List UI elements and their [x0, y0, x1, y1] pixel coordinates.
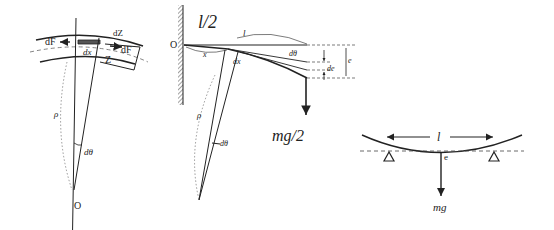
figure-cantilever: l/2 O l x dx dθ de e mg/2 ρ dθ	[170, 5, 355, 200]
origin-label: O	[74, 200, 81, 211]
inner-fiber	[40, 56, 135, 64]
dtheta-top-label: dθ	[289, 49, 297, 58]
figure-simply-supported: l e mg	[360, 130, 524, 213]
left-support	[384, 152, 394, 161]
dx-label: dx	[83, 47, 92, 57]
load-label: mg/2	[272, 127, 304, 145]
radius-line-left	[72, 18, 76, 230]
rho-arc	[61, 62, 72, 190]
l-label: l	[243, 28, 246, 38]
origin-label: O	[170, 39, 177, 50]
x-label: x	[202, 50, 207, 59]
tangent-line-2	[240, 52, 307, 70]
l-label: l	[437, 130, 441, 144]
sagging-beam	[362, 135, 522, 153]
e-label: e	[348, 56, 352, 65]
rho-arc	[195, 75, 215, 200]
half-length-title: l/2	[198, 12, 217, 32]
dtheta-arc	[74, 143, 82, 145]
e-label: e	[444, 152, 448, 162]
dZ-label: dZ	[113, 28, 123, 38]
weight-label: mg	[433, 201, 447, 213]
radius-line-1	[199, 50, 225, 200]
dtheta-label: dθ	[84, 147, 94, 157]
element-strip	[78, 40, 100, 44]
figure-bent-element: dF dF dZ Z dx ρ dθ O	[30, 18, 148, 230]
radius-line-2	[199, 52, 238, 200]
rho-label: ρ	[196, 110, 202, 120]
dtheta-label: dθ	[220, 139, 228, 148]
dF-left-label: dF	[45, 36, 56, 47]
rho-label: ρ	[53, 109, 59, 119]
Z-label: Z	[105, 54, 111, 65]
dF-right-label: dF	[121, 44, 132, 55]
dtheta-mark	[212, 143, 220, 144]
radius-line-right	[74, 38, 99, 190]
right-support	[489, 152, 499, 161]
diagram-canvas: dF dF dZ Z dx ρ dθ O l/2 O l x dx dθ de …	[0, 0, 554, 230]
l-arc	[237, 34, 307, 44]
de-label: de	[327, 64, 335, 73]
wall-hatch	[178, 5, 183, 105]
